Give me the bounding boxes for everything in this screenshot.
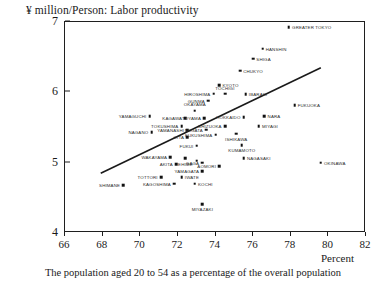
y-tick-mark-7 — [65, 21, 70, 22]
data-point — [257, 125, 260, 128]
data-point — [205, 128, 208, 131]
data-point-label: TOCHIGI — [215, 86, 234, 91]
x-tick-mark-72 — [177, 232, 178, 236]
data-point — [169, 156, 172, 159]
data-point-label: OKAYAMA — [184, 102, 206, 107]
data-point-label: FUKUSHIMA — [185, 132, 212, 137]
data-point-label: GREATER TOKYO — [292, 24, 331, 29]
data-point-label: AOMORI — [197, 164, 216, 169]
data-point — [320, 161, 323, 164]
data-point — [242, 157, 245, 160]
x-axis-caption: The population aged 20 to 54 as a percen… — [0, 267, 386, 278]
data-point-label: HIROSHIMA — [184, 91, 210, 96]
data-point-label: OKINAWA — [324, 160, 345, 165]
data-point-label: IBARAKI — [249, 92, 267, 97]
x-tick-mark-70 — [139, 232, 140, 236]
data-point-label: SHIMANE — [99, 183, 120, 188]
data-point — [173, 182, 176, 185]
data-point — [194, 182, 197, 185]
data-point-label: NARA — [268, 114, 281, 119]
data-point — [224, 125, 227, 128]
data-point — [252, 57, 255, 60]
data-point-label: SHIGA — [256, 56, 270, 61]
data-point — [195, 159, 198, 162]
data-point-label: YAMAGATA — [175, 169, 200, 174]
data-point — [201, 170, 204, 173]
data-point-label: KAGOSHIMA — [143, 181, 171, 186]
y-tick-mark-5 — [65, 161, 70, 162]
data-point — [203, 117, 206, 120]
data-point — [212, 92, 215, 95]
data-point-label: AKITA — [160, 162, 173, 167]
data-point — [214, 133, 217, 136]
scatter-chart-figure: ¥ million/Person: Labor productivity GRE… — [0, 0, 386, 293]
x-axis-title: Percent — [321, 252, 354, 264]
data-point-label: NAGASAKI — [247, 156, 271, 161]
data-point — [293, 104, 296, 107]
x-tick-label-70: 70 — [134, 238, 145, 250]
data-point-label: NAGANO — [128, 130, 148, 135]
data-point — [242, 116, 245, 119]
data-point-label: WAKAYAMA — [141, 155, 167, 160]
data-point — [122, 184, 125, 187]
x-tick-mark-82 — [365, 232, 366, 236]
data-point — [241, 144, 244, 147]
data-point-label: TOYAMA — [182, 116, 201, 121]
data-point-label: OITA — [174, 135, 185, 140]
data-point — [150, 131, 153, 134]
plot-area: GREATER TOKYOHANSHINSHIGACHUKYOKYOTOTOCH… — [64, 21, 365, 232]
data-point — [239, 69, 242, 72]
x-tick-label-76: 76 — [247, 238, 258, 250]
data-point-label: FUKUI — [180, 143, 194, 148]
x-tick-label-80: 80 — [322, 238, 333, 250]
y-tick-label-6: 6 — [52, 84, 58, 99]
data-point — [288, 26, 291, 29]
x-tick-label-78: 78 — [284, 238, 295, 250]
x-tick-label-68: 68 — [96, 238, 107, 250]
x-tick-mark-74 — [215, 232, 216, 236]
data-point — [175, 163, 178, 166]
data-point — [263, 115, 266, 118]
data-point — [194, 109, 197, 112]
y-tick-label-5: 5 — [52, 154, 58, 169]
y-tick-label-7: 7 — [52, 14, 58, 29]
data-point — [195, 144, 198, 147]
y-tick-label-4: 4 — [52, 225, 58, 240]
data-point-label: YAMAGUCHI — [119, 114, 147, 119]
data-point — [224, 92, 227, 95]
data-point-label: KOCHI — [198, 181, 213, 186]
data-point — [261, 47, 264, 50]
data-point-label: TOTTORI — [138, 175, 158, 180]
data-point-label: HOKKAIDO — [216, 114, 240, 119]
data-point-label: ISHIKAWA — [225, 137, 247, 142]
data-point — [207, 99, 210, 102]
data-point-label: YAMANASHI — [157, 128, 184, 133]
data-point — [148, 115, 151, 118]
x-tick-mark-66 — [64, 232, 65, 236]
data-point — [244, 93, 247, 96]
data-point-label: MIYAGI — [262, 124, 278, 129]
x-tick-mark-76 — [252, 232, 253, 236]
x-tick-label-66: 66 — [59, 238, 70, 250]
data-point — [201, 203, 204, 206]
data-point-label: KAGAWA — [162, 116, 182, 121]
data-point-label: KUMAMOTO — [228, 148, 255, 153]
x-tick-mark-68 — [102, 232, 103, 236]
x-tick-mark-78 — [290, 232, 291, 236]
data-point-label: MIYAZAKI — [192, 207, 213, 212]
data-point — [218, 165, 221, 168]
data-point-label: CHUKYO — [243, 68, 263, 73]
x-tick-label-82: 82 — [360, 238, 371, 250]
data-point — [160, 176, 163, 179]
data-point — [180, 176, 183, 179]
data-point — [235, 133, 238, 136]
data-point-label: HANSHIN — [266, 46, 287, 51]
y-tick-mark-6 — [65, 91, 70, 92]
x-tick-label-72: 72 — [171, 238, 182, 250]
data-point-label: IWATE — [185, 175, 199, 180]
x-tick-label-74: 74 — [209, 238, 220, 250]
data-point-label: FUKUOKA — [298, 102, 320, 107]
x-tick-mark-80 — [327, 232, 328, 236]
data-point-label: SHIZUOKA — [198, 124, 222, 129]
